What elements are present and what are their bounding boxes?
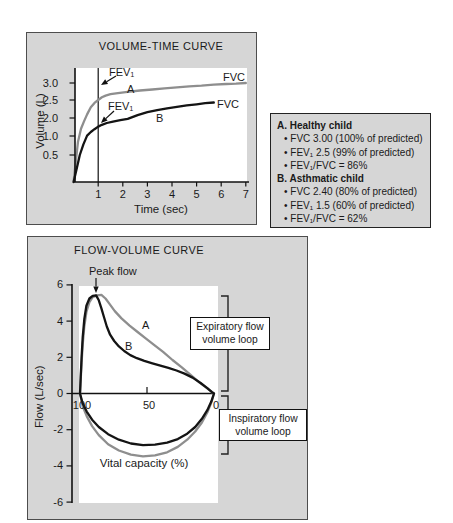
inspiratory-loop-label: Inspiratory flow volume loop	[219, 409, 307, 441]
vt-y-tick-label: 2.5	[29, 94, 58, 107]
fv-y-tick-label: -4	[34, 459, 63, 472]
curve-a-label: A	[127, 83, 134, 95]
curve-b-label: B	[156, 112, 163, 124]
expiratory-loop-label: Expiratory flow volume loop	[190, 317, 270, 350]
vt-y-tick-label: 1.0	[29, 130, 58, 143]
flow-volume-panel: FLOW-VOLUME CURVE Flow (L/sec) Vital cap…	[27, 236, 308, 520]
vt-y-tick-label: 3.0	[29, 77, 58, 90]
vt-x-tick-label: 7	[236, 188, 256, 201]
vt-x-tick-label: 3	[137, 188, 157, 201]
vital-capacity-axis-label: Vital capacity (%)	[84, 457, 204, 469]
vt-x-tick-label: 2	[113, 188, 133, 201]
legend-line: • FVC 3.00 (100% of predicted)	[277, 132, 427, 145]
vt-x-tick-label: 5	[187, 188, 207, 201]
fvc-b-label: FVC	[217, 98, 239, 110]
fv-y-tick-label: 4	[34, 315, 63, 328]
legend-header: A. Healthy child	[277, 119, 427, 132]
vt-y-tick-label: 0.5	[29, 149, 58, 162]
fv-y-tick-label: 6	[34, 278, 63, 291]
expiratory-loop-line2: volume loop	[191, 334, 269, 347]
fv-y-tick-label: -6	[34, 496, 63, 509]
results-legend: A. Healthy child• FVC 3.00 (100% of pred…	[270, 113, 431, 228]
vt-x-tick-label: 1	[88, 188, 108, 201]
fv-curve-a-label: A	[142, 319, 149, 331]
legend-line: • FEV₁/FVC = 62%	[277, 212, 427, 225]
legend-line: • FEV₁ 2.5 (99% of predicted)	[277, 146, 427, 159]
inspiratory-loop-line1: Inspiratory flow	[220, 413, 306, 426]
fvc-a-label: FVC	[223, 71, 245, 83]
fv-y-tick-label: 0	[34, 387, 63, 400]
inspiratory-loop-line2: volume loop	[220, 426, 306, 439]
fv-curve-b-label: B	[125, 340, 132, 352]
legend-line: • FEV₁/FVC = 86%	[277, 159, 427, 172]
time-axis-label: Time (sec)	[101, 203, 221, 215]
volume-time-title: VOLUME-TIME CURVE	[75, 40, 247, 52]
fv-x-tick-label: 100	[67, 399, 97, 412]
fv-x-tick-label: 50	[134, 399, 164, 412]
fev1-a-annotation: FEV₁	[109, 66, 134, 78]
figure-page: VOLUME-TIME CURVE Volume (L) Time (sec) …	[0, 0, 453, 523]
vt-x-tick-label: 6	[211, 188, 231, 201]
expiratory-loop-line1: Expiratory flow	[191, 321, 269, 334]
legend-line: • FEV₁ 1.5 (60% of predicted)	[277, 199, 427, 212]
fev1-b-annotation: FEV₁	[108, 100, 133, 112]
flow-volume-title: FLOW-VOLUME CURVE	[59, 244, 219, 256]
vt-y-tick-label: 2.0	[29, 112, 58, 125]
fv-y-tick-label: 2	[34, 351, 63, 364]
volume-time-panel: VOLUME-TIME CURVE Volume (L) Time (sec) …	[26, 32, 257, 225]
legend-header: B. Asthmatic child	[277, 172, 427, 185]
fv-y-tick-label: -2	[34, 423, 63, 436]
flow-volume-plot	[28, 237, 307, 519]
peak-flow-label: Peak flow	[89, 265, 137, 277]
fv-x-tick-label: 0	[201, 399, 231, 412]
legend-line: • FVC 2.40 (80% of predicted)	[277, 185, 427, 198]
vt-x-tick-label: 4	[162, 188, 182, 201]
